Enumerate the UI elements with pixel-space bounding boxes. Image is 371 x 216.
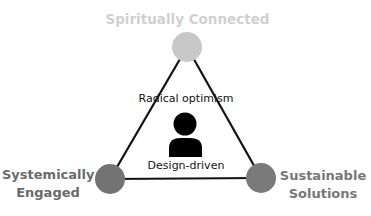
label-systemically-engaged: Systemically Engaged: [2, 166, 94, 202]
label-line: Solutions: [277, 185, 369, 203]
edge-bottom: [110, 178, 261, 179]
node-spiritually-connected: [172, 32, 202, 62]
label-sustainable-solutions: Sustainable Solutions: [277, 167, 369, 203]
label-line: Systemically: [2, 166, 94, 184]
label-line: Sustainable: [277, 167, 369, 185]
node-systemically-engaged: [95, 164, 125, 194]
node-sustainable-solutions: [246, 163, 276, 193]
design-driven-text: Design-driven: [130, 159, 242, 172]
person-icon: [169, 113, 202, 158]
triangle-diagram: Spiritually Connected Systemically Engag…: [0, 0, 371, 216]
label-line: Engaged: [2, 184, 94, 202]
label-spiritually-connected: Spiritually Connected: [90, 10, 285, 28]
radical-optimism-text: Radical optimism: [130, 92, 242, 105]
